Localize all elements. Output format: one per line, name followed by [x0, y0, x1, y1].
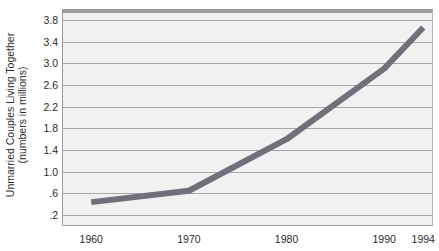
plot-area	[62, 9, 433, 226]
y-axis-tick-label: 1.0	[2, 166, 58, 178]
x-axis-tick-label: 1994	[412, 233, 435, 245]
x-axis-tick-label: 1970	[177, 233, 200, 245]
y-axis-tick-label: 3.4	[2, 36, 58, 48]
gridline	[63, 63, 432, 64]
y-axis-tick-label: 3.8	[2, 14, 58, 26]
y-axis-tick-label: 1.4	[2, 144, 58, 156]
gridline	[63, 107, 432, 108]
gridline	[63, 150, 432, 151]
gridline	[63, 42, 432, 43]
y-axis-tick-label: .2	[2, 209, 58, 221]
y-axis-tick-label: 1.8	[2, 122, 58, 134]
x-axis-tick-label: 1990	[372, 233, 395, 245]
gridline	[63, 85, 432, 86]
gridline	[63, 172, 432, 173]
y-axis-tick-label: 2.6	[2, 79, 58, 91]
line-chart: Unmarried Couples Living Together (numbe…	[0, 0, 439, 251]
y-axis-tick-label: 3.0	[2, 57, 58, 69]
gridline	[63, 20, 432, 21]
y-axis-tick-labels: 3.83.43.02.62.21.81.41.0.6.2	[0, 0, 58, 251]
y-axis-tick-label: 2.2	[2, 101, 58, 113]
y-axis-tick-label: .6	[2, 187, 58, 199]
gridline	[63, 128, 432, 129]
gridline	[63, 193, 432, 194]
gridline	[63, 215, 432, 216]
x-axis-tick-label: 1960	[80, 233, 103, 245]
x-axis-tick-label: 1980	[275, 233, 298, 245]
